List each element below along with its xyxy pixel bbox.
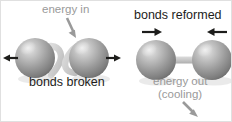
energy-in-arrow bbox=[67, 18, 76, 38]
label-bonds-reformed: bonds reformed bbox=[134, 9, 222, 22]
bonds-broken-group bbox=[3, 18, 121, 84]
bond-energy-diagram: energy in bonds broken bonds reformed en… bbox=[0, 0, 232, 122]
bonds-reformed-group bbox=[136, 28, 232, 117]
arrow-atom-left-inward bbox=[142, 28, 162, 36]
arrow-atom-right-inward bbox=[207, 28, 227, 36]
label-cooling: (cooling) bbox=[158, 89, 202, 101]
energy-out-arrow bbox=[183, 102, 198, 117]
label-energy-out: energy out bbox=[153, 76, 207, 88]
label-bonds-broken: bonds broken bbox=[29, 76, 105, 89]
label-energy-in: energy in bbox=[42, 4, 89, 16]
